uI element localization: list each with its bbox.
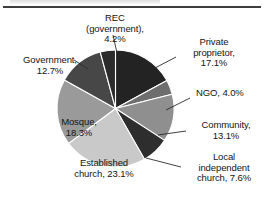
slice-label-government-line2: 12.7% (3, 66, 97, 77)
slice-label-government: Government, 12.7% (3, 55, 97, 76)
slice-label-mosque-line1: Mosque, (48, 117, 110, 128)
slice-label-localchurch-line1: Local (185, 152, 263, 163)
slice-label-private-line3: 17.1% (174, 58, 254, 69)
slice-label-rec-line3: 4.2% (63, 34, 167, 45)
slice-label-rec: REC (government), 4.2% (63, 13, 167, 45)
slice-label-mosque-line2: 18.3% (48, 128, 110, 139)
slice-label-rec-line1: REC (63, 13, 167, 24)
slice-label-established-line1: Established (58, 158, 150, 169)
slice-label-local-independent-church: Local independent church, 7.6% (185, 152, 263, 184)
pie-chart-figure: REC (government), 4.2% Private proprieto… (0, 0, 264, 201)
slice-label-established-line2: church, 23.1% (58, 169, 150, 180)
slice-label-community-line1: Community, (190, 120, 262, 131)
slice-label-community: Community, 13.1% (190, 120, 262, 141)
slice-label-private-proprietor: Private proprietor, 17.1% (174, 37, 254, 69)
slice-label-private-line1: Private (174, 37, 254, 48)
slice-label-ngo-line1: NGO, 4.0% (196, 88, 262, 99)
slice-label-localchurch-line3: church, 7.6% (185, 173, 263, 184)
slice-label-mosque: Mosque, 18.3% (48, 117, 110, 138)
slice-label-community-line2: 13.1% (190, 131, 262, 142)
slice-label-ngo: NGO, 4.0% (196, 88, 262, 99)
slice-label-government-line1: Government, (3, 55, 97, 66)
slice-label-established-church: Established church, 23.1% (58, 158, 150, 179)
